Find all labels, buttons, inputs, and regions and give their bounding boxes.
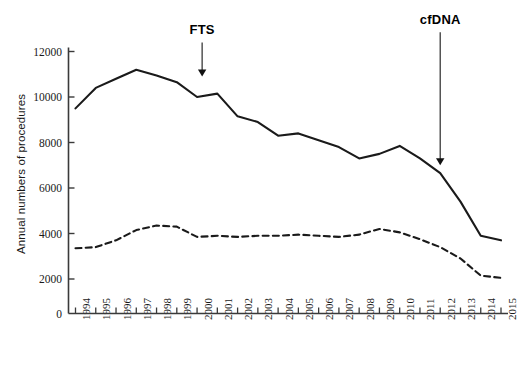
annotation-arrow-head (198, 70, 206, 77)
axes (69, 48, 509, 314)
series-line-dashed-series (76, 226, 502, 278)
data-series-group (76, 70, 502, 278)
annotation-arrow-head (436, 158, 444, 165)
annotation-arrows (198, 32, 444, 165)
series-line-solid-series (76, 70, 502, 241)
